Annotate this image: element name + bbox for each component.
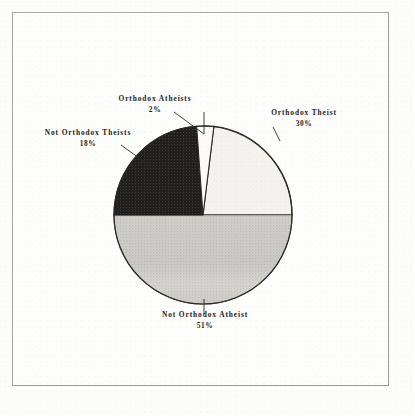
page-canvas: Orthodox Atheists 2% Orthodox Theist 30%… (0, 0, 415, 416)
pie-chart (0, 0, 415, 416)
slice-label-orthodox-theist-name: Orthodox Theist (271, 108, 337, 117)
slice-label-not-orthodox-atheist-percent: 51% (141, 321, 269, 332)
slice-label-not-orthodox-theists: Not Orthodox Theists 18% (32, 128, 144, 149)
slice-label-not-orthodox-atheist: Not Orthodox Atheist 51% (141, 310, 269, 331)
slice-label-orthodox-atheists-name: Orthodox Atheists (119, 94, 192, 103)
slice-label-not-orthodox-atheist-name: Not Orthodox Atheist (162, 310, 248, 319)
slice-label-orthodox-theist-percent: 30% (252, 119, 356, 130)
pie-slice-not-orthodox-atheist-texture (114, 215, 292, 304)
slice-label-orthodox-atheists: Orthodox Atheists 2% (101, 94, 209, 115)
slice-label-not-orthodox-theists-name: Not Orthodox Theists (45, 128, 131, 137)
slice-label-orthodox-theist: Orthodox Theist 30% (252, 108, 356, 129)
slice-label-not-orthodox-theists-percent: 18% (32, 139, 144, 150)
pie-slice-orthodox-theist[interactable] (203, 126, 292, 215)
slice-label-orthodox-atheists-percent: 2% (101, 105, 209, 116)
